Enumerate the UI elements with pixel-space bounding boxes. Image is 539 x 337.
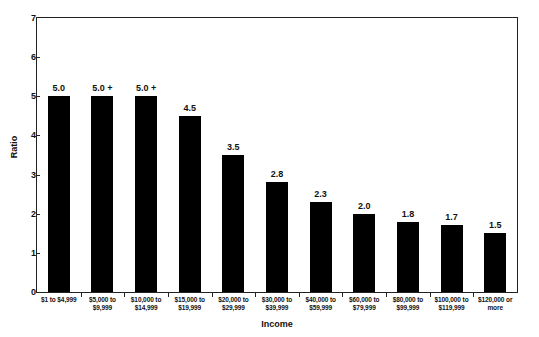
bar[interactable] [353, 214, 375, 292]
bar-group[interactable]: 5.0 + [124, 18, 168, 292]
y-tick-mark [36, 57, 40, 58]
y-tick-label: 5 [8, 92, 36, 101]
bar[interactable] [179, 116, 201, 292]
bar-value-label: 2.0 [358, 201, 371, 211]
bar-group[interactable]: 5.0 + [81, 18, 125, 292]
bar-group[interactable]: 5.0 [37, 18, 81, 292]
bar-group[interactable]: 1.5 [473, 18, 517, 292]
y-tick-mark [36, 253, 40, 254]
bar[interactable] [310, 202, 332, 292]
bar[interactable] [266, 182, 288, 292]
y-tick-label: 7 [8, 14, 36, 23]
bars-layer: 5.05.0 +5.0 +4.53.52.82.32.01.81.71.5 [37, 18, 517, 292]
bar[interactable] [48, 96, 70, 292]
bar-group[interactable]: 2.8 [255, 18, 299, 292]
bar-value-label: 1.7 [445, 212, 458, 222]
y-tick-mark [36, 96, 40, 97]
y-tick-label: 4 [8, 131, 36, 140]
y-tick-label: 1 [8, 248, 36, 257]
bar-value-label: 2.3 [314, 189, 327, 199]
x-axis-title: Income [36, 319, 518, 329]
bar[interactable] [484, 233, 506, 292]
bar-value-label: 4.5 [183, 103, 196, 113]
bar-group[interactable]: 4.5 [168, 18, 212, 292]
y-tick-mark [36, 175, 40, 176]
x-axis-labels: $1 to $4,999$5,000 to$9,999$10,000 to$14… [37, 296, 517, 318]
y-tick-label: 2 [8, 209, 36, 218]
chart-title: to Current Income, 2001 [0, 0, 539, 1]
bar[interactable] [222, 155, 244, 292]
y-tick-label: 6 [8, 53, 36, 62]
y-tick-label: 3 [8, 170, 36, 179]
bar[interactable] [397, 222, 419, 292]
bar-group[interactable]: 3.5 [212, 18, 256, 292]
bar-value-label: 5.0 [53, 83, 66, 93]
x-category-label-line: $120,000 or [469, 296, 521, 304]
y-tick-mark [36, 135, 40, 136]
bar-value-label: 5.0 + [92, 83, 112, 93]
bar-chart: to Current Income, 2001 Ratio 01234567 5… [0, 0, 539, 337]
bar-value-label: 1.8 [402, 209, 415, 219]
x-category-label-line: more [469, 304, 521, 312]
bar-group[interactable]: 1.8 [386, 18, 430, 292]
bar-group[interactable]: 2.0 [342, 18, 386, 292]
bar-group[interactable]: 2.3 [299, 18, 343, 292]
bar-group[interactable]: 1.7 [430, 18, 474, 292]
bar[interactable] [441, 225, 463, 292]
y-tick-label: 0 [8, 288, 36, 297]
bar-value-label: 1.5 [489, 220, 502, 230]
y-axis: 01234567 [0, 0, 36, 337]
bar-value-label: 5.0 + [136, 83, 156, 93]
x-category-label: $120,000 ormore [469, 296, 521, 312]
y-tick-mark [36, 214, 40, 215]
bar[interactable] [135, 96, 157, 292]
bar-value-label: 3.5 [227, 142, 240, 152]
bar[interactable] [91, 96, 113, 292]
bar-value-label: 2.8 [271, 169, 284, 179]
